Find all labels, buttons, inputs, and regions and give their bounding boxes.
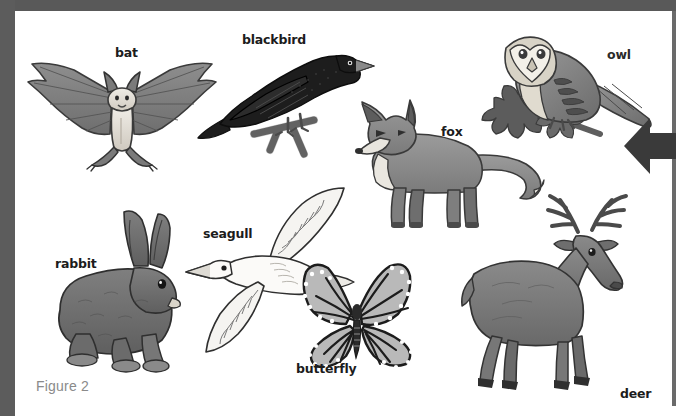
label-butterfly: butterfly: [296, 363, 357, 376]
label-fox: fox: [441, 126, 463, 139]
label-rabbit: rabbit: [55, 258, 97, 271]
left-pointing-arrow-icon: [624, 112, 676, 180]
label-deer: deer: [620, 388, 651, 401]
label-seagull: seagull: [203, 228, 252, 241]
animal-illustration-rabbit: [38, 206, 198, 376]
label-owl: owl: [607, 49, 631, 62]
page-frame-left: [0, 0, 15, 416]
label-bat: bat: [115, 47, 138, 60]
animal-illustration-deer: [458, 194, 643, 394]
figure-page: bat blackbird owl fox seagull rabbit but…: [0, 0, 676, 416]
label-blackbird: blackbird: [242, 34, 306, 47]
page-frame-right: [672, 11, 676, 406]
animal-illustration-bat: [24, 48, 214, 178]
page-frame-top: [0, 0, 676, 11]
figure-caption: Figure 2: [36, 378, 89, 394]
